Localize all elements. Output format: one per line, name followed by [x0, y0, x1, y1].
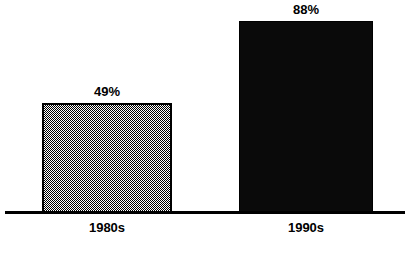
x-axis-label-1980s: 1980s	[42, 220, 172, 235]
bar-1980s	[42, 103, 172, 213]
plot-area: 49% 88% 1980s 1990s	[0, 0, 412, 257]
x-axis-label-1990s: 1990s	[239, 220, 373, 235]
x-axis-line	[5, 211, 405, 214]
bar-1990s	[239, 21, 373, 213]
bar-chart: 49% 88% 1980s 1990s	[0, 0, 412, 257]
bar-value-label-1980s: 49%	[42, 84, 172, 99]
bar-value-label-1990s: 88%	[239, 2, 373, 17]
